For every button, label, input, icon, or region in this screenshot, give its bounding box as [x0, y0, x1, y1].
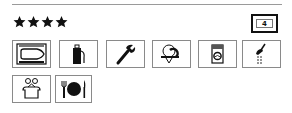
facility-provisions [12, 75, 51, 103]
star-icon [13, 12, 26, 30]
category-badge: 4 [251, 14, 278, 33]
wrench-icon [109, 42, 142, 66]
facility-repairs [106, 40, 145, 68]
star-icon [27, 12, 40, 30]
star-icon [41, 12, 54, 30]
facility-showers [242, 40, 281, 68]
shower-icon [245, 42, 278, 66]
star-icon [55, 12, 68, 30]
category-badge-value: 4 [256, 19, 273, 28]
fuel-pump-icon [62, 42, 95, 66]
boat-harbour-icon [15, 42, 48, 66]
top-divider [12, 4, 282, 5]
water-tap-icon [155, 42, 188, 66]
facility-marina [12, 40, 51, 68]
facility-fuel [59, 40, 98, 68]
facility-water [152, 40, 191, 68]
washing-machine-icon [201, 42, 234, 66]
restaurant-icon [57, 77, 90, 101]
star-rating [13, 12, 68, 30]
facility-laundry [198, 40, 237, 68]
facility-restaurant [55, 75, 92, 103]
provisions-shop-icon [15, 77, 48, 101]
